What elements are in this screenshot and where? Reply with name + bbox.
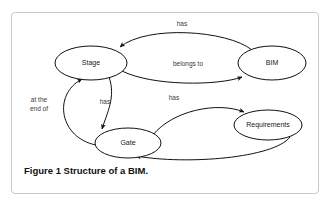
diagram-canvas: has belongs to has at the end of has for… [12, 13, 320, 163]
figure-caption-text: Structure of a BIM. [64, 165, 148, 176]
edge-label-at-the-end-of-line2: end of [30, 105, 48, 112]
edge-gate-has-requirements [153, 108, 244, 135]
node-bim[interactable]: BIM [238, 46, 306, 80]
node-stage-label: Stage [82, 59, 100, 67]
edge-label-has-bim-stage: has [177, 20, 188, 27]
figure-frame: has belongs to has at the end of has for… [11, 12, 319, 194]
node-gate[interactable]: Gate [95, 128, 161, 158]
edge-label-at-the-end-of-line1: at the [31, 96, 48, 103]
edge-stage-belongsto-bim [122, 71, 242, 83]
figure-caption: Figure 1 Structure of a BIM. [24, 165, 310, 176]
node-gate-label: Gate [120, 139, 135, 146]
node-stage[interactable]: Stage [55, 46, 127, 80]
node-requirements[interactable]: Requirements [234, 110, 302, 140]
edge-gate-attheendof-stage [64, 79, 96, 145]
edge-label-has-stage-gate: has [100, 98, 111, 105]
node-requirements-label: Requirements [246, 121, 290, 129]
figure-caption-number: Figure 1 [24, 165, 61, 176]
edge-bim-has-stage [120, 33, 252, 50]
edge-label-has-gate-requirements: has [169, 94, 180, 101]
node-bim-label: BIM [266, 59, 279, 66]
edge-label-belongs-to: belongs to [173, 60, 203, 68]
